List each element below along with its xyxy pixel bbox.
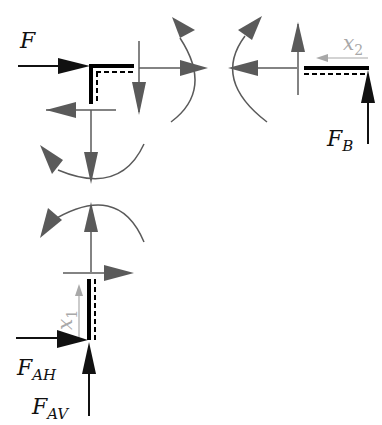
corner-segment: F bbox=[18, 17, 208, 184]
free-body-diagram: F bbox=[0, 0, 382, 425]
label-FAV: FAV bbox=[31, 394, 70, 423]
shear-force-right-arrow bbox=[104, 265, 134, 281]
shear-force-left-arrow bbox=[46, 102, 76, 118]
label-x1: x1 bbox=[53, 310, 80, 330]
bottom-segment: x1 FAH FAV bbox=[16, 202, 144, 423]
force-FAH-arrow bbox=[16, 330, 88, 348]
moment-arrow bbox=[40, 208, 62, 238]
label-x2: x2 bbox=[343, 31, 363, 58]
force-FB-arrow bbox=[361, 70, 375, 144]
label-FAH: FAH bbox=[16, 355, 57, 384]
corner-beam bbox=[90, 64, 134, 104]
moment-arrow bbox=[40, 145, 63, 174]
corner-right-cut bbox=[132, 17, 208, 122]
right-beam bbox=[304, 68, 369, 74]
right-segment: x2 FB bbox=[228, 16, 375, 155]
moment-arrow bbox=[172, 17, 195, 38]
bottom-column bbox=[89, 279, 95, 340]
label-FB: FB bbox=[326, 126, 353, 155]
moment-arrow bbox=[238, 16, 262, 40]
corner-bottom-cut bbox=[40, 102, 144, 184]
shear-force-down-arrow bbox=[132, 82, 146, 115]
shear-force-up-arrow bbox=[291, 22, 305, 52]
label-F: F bbox=[19, 28, 36, 53]
force-FAV-arrow bbox=[82, 342, 96, 416]
force-F-arrow bbox=[18, 58, 90, 74]
